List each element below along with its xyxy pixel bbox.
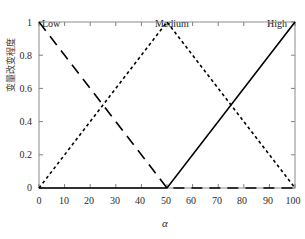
axes-frame [39, 22, 295, 188]
plot-area [0, 0, 305, 239]
fuzzy-membership-chart: 变量改变程度 1 0.8 0.6 0.4 0.2 0 0 10 20 30 40… [0, 0, 305, 239]
series-line-medium [39, 22, 295, 188]
series-line-high [39, 22, 295, 188]
tick-marks [39, 22, 295, 188]
axis-box [39, 22, 295, 188]
data-series [39, 22, 295, 188]
series-line-low [39, 22, 295, 188]
